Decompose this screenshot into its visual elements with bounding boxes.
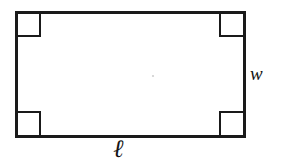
rectangle-diagram (0, 0, 283, 165)
length-label: ℓ (113, 136, 123, 161)
center-speck (152, 75, 154, 77)
width-label: w (250, 64, 263, 83)
rectangle-outline (16, 12, 244, 136)
right-angle-marker-top-right (220, 14, 243, 37)
right-angle-marker-top-left (18, 14, 41, 37)
right-angle-marker-bottom-right (220, 112, 243, 135)
geometry-figure: w ℓ (0, 0, 283, 165)
right-angle-marker-bottom-left (18, 112, 41, 135)
